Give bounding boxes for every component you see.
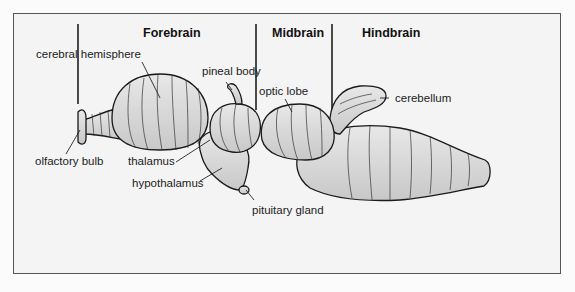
label-pineal-body: pineal body (202, 66, 261, 78)
label-optic-lobe: optic lobe (259, 86, 308, 98)
leader-pituitary-gland (246, 190, 254, 200)
optic-lobe-shape (261, 104, 334, 160)
olfactory-bulb-shape (78, 110, 86, 144)
label-thalamus: thalamus (128, 156, 175, 168)
region-midbrain-label: Midbrain (272, 27, 324, 40)
label-cerebral-hemisphere: cerebral hemisphere (36, 49, 141, 61)
region-forebrain-label: Forebrain (143, 27, 201, 40)
label-hypothalamus: hypothalamus (132, 178, 204, 190)
region-hindbrain-label: Hindbrain (362, 27, 420, 40)
pituitary-shape (239, 186, 249, 194)
thalamus-shape (210, 104, 260, 153)
label-cerebellum: cerebellum (395, 93, 451, 105)
brain-illustration (0, 0, 575, 292)
label-olfactory-bulb: olfactory bulb (35, 156, 103, 168)
label-pituitary-gland: pituitary gland (252, 205, 324, 217)
